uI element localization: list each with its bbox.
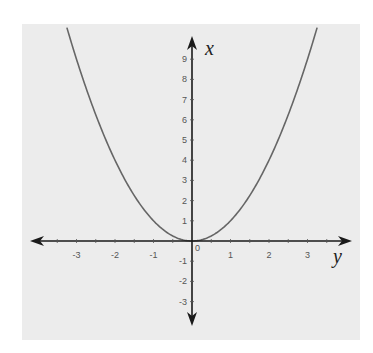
vertical-tick-label: 5 bbox=[182, 135, 187, 145]
vertical-tick-label: -1 bbox=[179, 256, 187, 266]
horizontal-tick-label: 1 bbox=[228, 250, 233, 260]
vertical-tick-label: -2 bbox=[179, 276, 187, 286]
vertical-tick-label: 2 bbox=[182, 196, 187, 206]
vertical-tick-label: 3 bbox=[182, 175, 187, 185]
horizontal-tick-label: -3 bbox=[72, 250, 80, 260]
horizontal-tick-label: 2 bbox=[266, 250, 271, 260]
horizontal-tick-label: -1 bbox=[149, 250, 157, 260]
horizontal-axis-label: y bbox=[331, 245, 342, 268]
origin-label: 0 bbox=[195, 243, 200, 253]
vertical-tick-label: 7 bbox=[182, 95, 187, 105]
vertical-tick-label: 8 bbox=[182, 74, 187, 84]
vertical-tick-label: 4 bbox=[182, 155, 187, 165]
vertical-tick-label: 1 bbox=[182, 216, 187, 226]
vertical-axis-label: x bbox=[204, 37, 214, 59]
vertical-tick-label: 9 bbox=[182, 54, 187, 64]
chart: -3-2-1123-3-2-1123456789 0 x y bbox=[0, 0, 373, 353]
horizontal-tick-label: 3 bbox=[305, 250, 310, 260]
horizontal-tick-label: -2 bbox=[111, 250, 119, 260]
vertical-tick-label: 6 bbox=[182, 115, 187, 125]
vertical-tick-label: -3 bbox=[179, 297, 187, 307]
